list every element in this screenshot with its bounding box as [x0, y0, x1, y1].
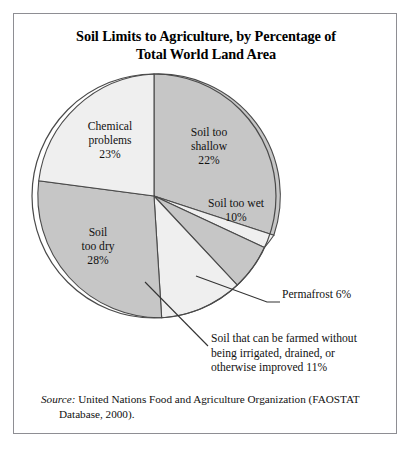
pie-label-soil-too-dry: Soil too dry 28% [62, 226, 134, 269]
source-note-text-line-1: United Nations Food and Agriculture Orga… [75, 393, 359, 405]
pie-label-soil-too-dry-line-2: too dry [62, 240, 134, 254]
pie-label-soil-too-shallow-line-2: shallow [170, 140, 248, 154]
pie-label-soil-too-wet: Soil too wet 10% [188, 197, 284, 225]
pie-label-chemical-problems: Chemical problems 23% [62, 120, 158, 163]
source-note-label: Source: [41, 393, 75, 405]
pie-label-chemical-problems-line-2: problems [62, 134, 158, 148]
pie-label-soil-too-shallow-line-1: Soil too [170, 126, 248, 140]
pie-label-soil-too-wet-line-1: Soil too wet [188, 197, 284, 211]
pie-label-chemical-problems-value: 23% [62, 148, 158, 162]
figure-frame: Soil Limits to Agriculture, by Percentag… [13, 13, 397, 434]
pie-label-soil-too-shallow: Soil too shallow 22% [170, 126, 248, 169]
pie-callout-permafrost: Permafrost 6% [282, 288, 351, 303]
pie-callout-farmable-soil-line-1: Soil that can be farmed without [211, 332, 387, 347]
source-note-text-line-2: Database, 2000). [41, 407, 371, 422]
pie-callout-farmable-soil: Soil that can be farmed without being ir… [211, 332, 387, 376]
pie-label-soil-too-shallow-value: 22% [170, 154, 248, 168]
pie-callout-farmable-soil-line-2: being irrigated, drained, or [211, 347, 387, 362]
pie-label-soil-too-dry-line-1: Soil [62, 226, 134, 240]
pie-chart: Chemical problems 23% Soil too shallow 2… [14, 14, 398, 435]
pie-callout-farmable-soil-line-3: otherwise improved 11% [211, 361, 387, 376]
pie-label-soil-too-dry-value: 28% [62, 254, 134, 268]
source-note: Source: United Nations Food and Agricult… [41, 392, 371, 422]
pie-callout-permafrost-text: Permafrost 6% [282, 288, 351, 303]
pie-label-soil-too-wet-value: 10% [188, 211, 284, 225]
pie-label-chemical-problems-line-1: Chemical [62, 120, 158, 134]
